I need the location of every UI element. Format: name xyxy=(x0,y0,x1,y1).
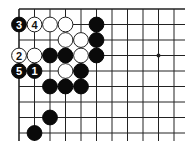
black-stone xyxy=(43,79,58,94)
move-number-label: 1 xyxy=(31,65,37,77)
star-point-icon xyxy=(157,54,161,58)
black-stone: 3 xyxy=(12,17,27,32)
black-stone xyxy=(43,48,58,63)
black-stone xyxy=(89,33,104,48)
white-stone-icon xyxy=(58,33,73,48)
black-stone-icon xyxy=(43,110,58,125)
black-stone xyxy=(58,79,73,94)
black-stone xyxy=(74,64,89,79)
move-number-label: 2 xyxy=(16,50,22,62)
white-stone: 2 xyxy=(12,48,27,63)
white-stone xyxy=(43,17,58,32)
board-canvas: 34251 xyxy=(0,0,195,145)
black-stone xyxy=(74,79,89,94)
black-stone-icon xyxy=(27,126,42,141)
black-stone-icon xyxy=(58,48,73,63)
white-stone xyxy=(58,64,73,79)
black-stone-icon xyxy=(89,17,104,32)
white-stone-icon xyxy=(43,17,58,32)
white-stone xyxy=(74,33,89,48)
white-stone-icon xyxy=(58,17,73,32)
move-number-label: 5 xyxy=(16,65,22,77)
black-stone xyxy=(89,48,104,63)
stones: 34251 xyxy=(12,17,104,140)
go-board-diagram: 34251 xyxy=(0,0,195,145)
white-stone-icon xyxy=(58,64,73,79)
white-stone-icon xyxy=(27,48,42,63)
black-stone xyxy=(43,110,58,125)
black-stone: 5 xyxy=(12,64,27,79)
black-stone-icon xyxy=(89,48,104,63)
black-stone-icon xyxy=(74,64,89,79)
white-stone xyxy=(58,17,73,32)
black-stone xyxy=(27,126,42,141)
white-stone-icon xyxy=(74,48,89,63)
white-stone xyxy=(74,48,89,63)
black-stone xyxy=(58,48,73,63)
black-stone: 1 xyxy=(27,64,42,79)
black-stone-icon xyxy=(74,79,89,94)
move-number-label: 3 xyxy=(16,19,22,31)
white-stone-icon xyxy=(74,33,89,48)
black-stone-icon xyxy=(58,79,73,94)
white-stone xyxy=(58,33,73,48)
white-stone: 4 xyxy=(27,17,42,32)
black-stone-icon xyxy=(43,48,58,63)
black-stone-icon xyxy=(89,33,104,48)
black-stone xyxy=(89,17,104,32)
white-stone xyxy=(27,48,42,63)
move-number-label: 4 xyxy=(31,19,38,31)
black-stone-icon xyxy=(43,79,58,94)
star-points xyxy=(157,54,161,58)
